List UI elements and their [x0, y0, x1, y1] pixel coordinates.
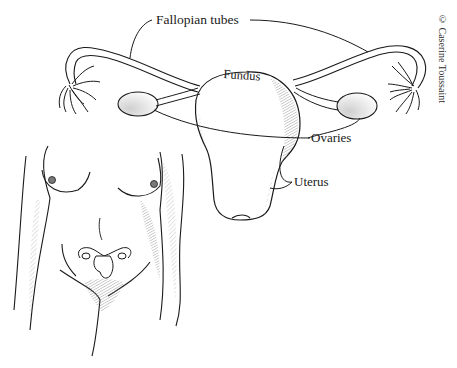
mini-uterus	[78, 248, 130, 278]
right-fallopian-tube	[293, 46, 426, 88]
anatomy-illustration: Fallopian tubes Fundus Ovaries Uterus © …	[0, 0, 457, 368]
uterus-line-drawing	[0, 0, 457, 368]
copyright-credit: © Caserine Toussaint	[437, 14, 448, 103]
label-fundus: Fundus	[223, 68, 261, 83]
label-ovaries: Ovaries	[311, 131, 351, 144]
left-fimbriae	[59, 66, 100, 114]
right-fimbriae	[388, 62, 419, 114]
right-ovary	[294, 88, 377, 119]
label-uterus: Uterus	[294, 175, 329, 188]
uterus-body	[195, 72, 300, 220]
label-fallopian-tubes: Fallopian tubes	[156, 13, 239, 27]
